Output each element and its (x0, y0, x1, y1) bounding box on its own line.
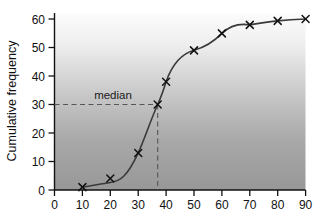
y-axis-ticks (49, 19, 55, 190)
x-tick-label: 80 (271, 198, 285, 212)
y-tick-label: 20 (32, 127, 46, 141)
y-tick-label: 60 (32, 13, 46, 27)
y-axis-title: Cumulative frequency (5, 40, 19, 162)
x-tick-label: 10 (76, 198, 90, 212)
y-tick-label: 10 (32, 155, 46, 169)
cumulative-frequency-chart: 0 10 20 30 40 50 60 0 10 20 30 4 (0, 0, 322, 216)
y-tick-label: 40 (32, 70, 46, 84)
x-tick-label: 60 (215, 198, 229, 212)
plot-background (55, 13, 306, 190)
x-tick-label: 30 (132, 198, 146, 212)
x-axis-ticks (55, 190, 306, 196)
chart-canvas: 0 10 20 30 40 50 60 0 10 20 30 4 (0, 0, 322, 216)
x-tick-label: 70 (243, 198, 257, 212)
median-annotation-label: median (94, 89, 132, 101)
y-tick-label: 50 (32, 41, 46, 55)
x-tick-label: 50 (187, 198, 201, 212)
x-tick-label: 90 (299, 198, 313, 212)
x-axis-tick-labels: 0 10 20 30 40 50 60 70 80 90 (51, 198, 312, 212)
x-tick-label: 40 (159, 198, 173, 212)
x-tick-label: 0 (51, 198, 58, 212)
x-tick-label: 20 (104, 198, 118, 212)
y-tick-label: 30 (32, 98, 46, 112)
y-axis-tick-labels: 0 10 20 30 40 50 60 (32, 13, 46, 198)
y-tick-label: 0 (38, 184, 45, 198)
